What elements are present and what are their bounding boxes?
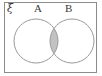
venn-diagram-figure: ξ A B xyxy=(0,0,102,76)
set-b-label: B xyxy=(65,3,72,14)
universal-set-label: ξ xyxy=(7,3,13,14)
set-a-label: A xyxy=(34,3,42,14)
venn-diagram-graphic xyxy=(0,0,102,76)
